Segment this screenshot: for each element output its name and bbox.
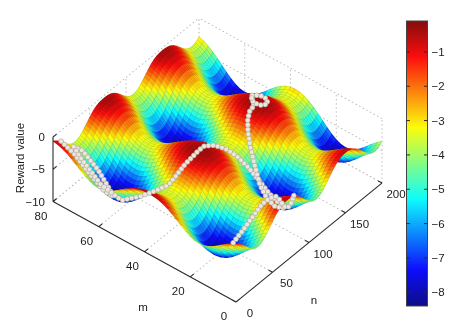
colorbar-tick-label: −2	[432, 80, 445, 92]
n-axis-label: n	[311, 294, 317, 306]
m-tick-label: 40	[126, 260, 139, 272]
figure-3d-reward-surface: Reward value m n 0−5−1002040608005010015…	[0, 0, 459, 332]
n-tick-label: 150	[350, 218, 369, 230]
colorbar-tick-label: −6	[432, 218, 445, 230]
m-tick-label: 0	[221, 310, 227, 322]
m-axis-label: m	[138, 301, 148, 313]
z-axis-label: Reward value	[14, 123, 26, 193]
n-tick-label: 200	[386, 188, 405, 200]
colorbar-tick-label: −7	[432, 252, 445, 264]
n-tick-label: 0	[247, 307, 253, 319]
colorbar-tick-label: −5	[432, 183, 445, 195]
z-tick-label: −10	[25, 196, 45, 208]
z-tick-label: 0	[39, 131, 45, 143]
m-tick-label: 60	[80, 235, 93, 247]
surface-plot-canvas	[0, 0, 459, 332]
colorbar-tick-label: −8	[432, 286, 445, 298]
n-tick-label: 50	[280, 277, 293, 289]
colorbar-tick-label: −3	[432, 115, 445, 127]
z-tick-label: −5	[32, 163, 45, 175]
m-tick-label: 20	[172, 285, 185, 297]
colorbar-tick-label: −4	[432, 149, 445, 161]
m-tick-label: 80	[35, 210, 48, 222]
n-tick-label: 100	[313, 248, 332, 260]
colorbar-tick-label: −1	[432, 46, 445, 58]
